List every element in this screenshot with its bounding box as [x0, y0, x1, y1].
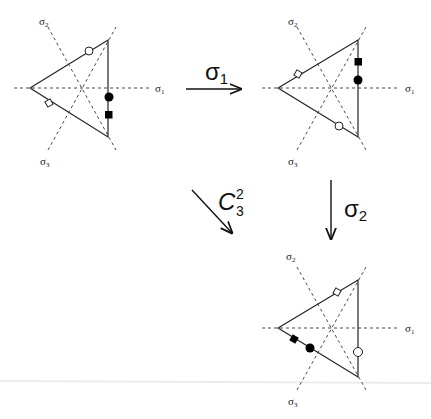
filled-square-marker: [355, 58, 363, 66]
open-circle-marker: [85, 47, 93, 55]
sigma2-axis: [48, 27, 116, 150]
sigma3-label: σ3: [40, 155, 50, 169]
symmetry-diagram: σ1 σ2 σ3 σ1 σ2 σ3 σ1 σ2 σ3 σ1 σ2 C 2 3: [0, 0, 431, 419]
filled-circle-marker: [105, 93, 114, 102]
sigma2-label: σ2: [288, 15, 298, 29]
sigma2-axis: [297, 267, 366, 390]
sigma2-transform-label: σ2: [344, 195, 367, 224]
filled-square-marker: [105, 111, 113, 119]
sigma2-label: σ2: [39, 15, 49, 29]
sigma3-axis: [297, 267, 366, 390]
c3-squared-sup: 2: [236, 186, 244, 202]
c3-squared-transform-label: C: [218, 188, 236, 215]
triangle-after-sigma2: σ1 σ2 σ3: [262, 250, 415, 409]
sigma3-axis: [48, 27, 116, 150]
filled-circle-marker: [354, 76, 363, 85]
sigma1-label: σ1: [155, 82, 165, 96]
c3-squared-sub: 3: [236, 203, 244, 219]
triangle: [30, 40, 108, 137]
open-diamond-marker: [294, 70, 302, 78]
faint-separator: [0, 381, 431, 383]
open-circle-marker: [335, 122, 343, 130]
triangle-original: σ1 σ2 σ3: [14, 15, 165, 169]
sigma1-label: σ1: [405, 82, 415, 96]
filled-circle-marker: [306, 344, 315, 353]
sigma2-axis: [297, 27, 366, 150]
triangle: [278, 40, 358, 137]
sigma3-label: σ3: [288, 155, 298, 169]
open-circle-marker: [354, 348, 363, 357]
sigma1-transform-label: σ1: [205, 58, 228, 87]
sigma1-label: σ1: [405, 322, 415, 336]
triangle: [278, 280, 358, 377]
triangle-after-sigma1: σ1 σ2 σ3: [262, 15, 415, 169]
open-diamond-marker: [45, 99, 53, 107]
sigma3-axis: [297, 27, 366, 150]
sigma2-label: σ2: [286, 250, 296, 264]
sigma3-label: σ3: [288, 395, 298, 409]
